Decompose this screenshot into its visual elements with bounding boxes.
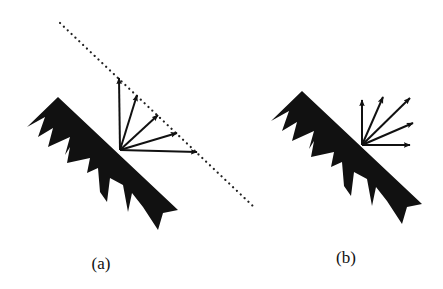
reflection-diagram	[0, 0, 443, 289]
ray-arrow-3	[362, 98, 410, 145]
rough-surface-b	[271, 91, 422, 224]
panel-b-caption: (b)	[336, 248, 356, 268]
ray-arrow-5	[120, 150, 197, 152]
panel-a	[27, 23, 255, 230]
reflected-rays-b	[362, 97, 413, 145]
panel-a-caption: (a)	[92, 254, 111, 274]
panel-b	[271, 91, 422, 224]
ray-arrow-1	[119, 78, 120, 150]
reflected-rays-a	[119, 78, 197, 152]
diagram-canvas: (a) (b)	[0, 0, 443, 289]
